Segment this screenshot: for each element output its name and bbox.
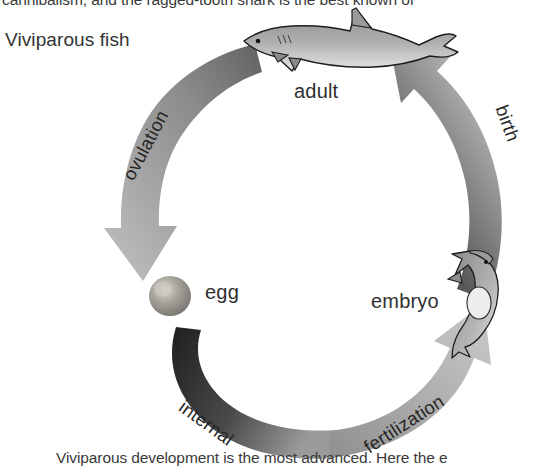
arrow-internal [172,327,336,459]
node-label-egg: egg [205,281,239,304]
body-text-below-line: Viviparous development is the most advan… [56,450,447,467]
node-label-embryo: embryo [371,290,439,313]
node-label-adult: adult [294,80,338,103]
egg-sphere-illustration [149,276,191,316]
body-text-below-figure: Viviparous development is the most advan… [0,450,543,468]
viviparous-cycle-diagram [0,0,543,468]
embryo-shark-illustration [448,250,498,358]
